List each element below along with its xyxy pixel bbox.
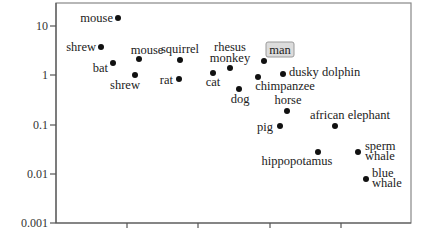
label-squirrel: squirrel xyxy=(161,42,200,56)
y-tick-label-1: 1 xyxy=(42,68,48,82)
point-rat xyxy=(176,76,182,82)
point-dusky-dolphin xyxy=(280,71,286,77)
label-man: man xyxy=(269,43,291,57)
label-bat: bat xyxy=(93,61,109,75)
label-dusky-dolphin: dusky dolphin xyxy=(289,65,361,79)
point-shrew-a xyxy=(98,44,104,50)
point-squirrel xyxy=(177,57,183,63)
point-labels: mouse shrew bat mouse shrew squirrel rat… xyxy=(66,11,402,190)
label-pig: pig xyxy=(257,120,274,134)
y-ticks xyxy=(50,26,56,223)
point-man xyxy=(261,58,267,64)
label-blue-2: whale xyxy=(372,176,402,190)
point-african-elephant xyxy=(332,123,338,129)
point-mouse-a xyxy=(115,15,121,21)
point-pig xyxy=(277,123,283,129)
label-dog: dog xyxy=(231,92,251,106)
point-sperm-whale xyxy=(355,149,361,155)
label-mouse-b: mouse xyxy=(131,43,164,57)
point-horse xyxy=(284,108,290,114)
label-horse: horse xyxy=(274,93,302,107)
label-cat: cat xyxy=(206,75,221,89)
label-sperm-2: whale xyxy=(365,149,395,163)
point-rhesus-monkey xyxy=(227,65,233,71)
x-ticks xyxy=(127,223,341,228)
scatter-chart: 10 1 0.1 0.01 0.001 mouse shrew xyxy=(0,0,448,228)
label-hippopotamus: hippopotamus xyxy=(262,154,333,168)
y-tick-label-10: 10 xyxy=(36,19,48,33)
label-shrew-b: shrew xyxy=(110,78,140,92)
label-shrew-a: shrew xyxy=(66,40,96,54)
label-african-elephant: african elephant xyxy=(310,108,391,122)
label-rat: rat xyxy=(160,73,174,87)
point-blue-whale xyxy=(363,176,369,182)
label-chimpanzee: chimpanzee xyxy=(255,79,315,93)
y-tick-label-0.001: 0.001 xyxy=(21,216,48,228)
y-tick-label-0.01: 0.01 xyxy=(27,167,48,181)
label-mouse-a: mouse xyxy=(80,11,113,25)
y-tick-label-0.1: 0.1 xyxy=(33,118,48,132)
label-rhesus-2: monkey xyxy=(210,51,251,65)
point-bat xyxy=(110,60,116,66)
